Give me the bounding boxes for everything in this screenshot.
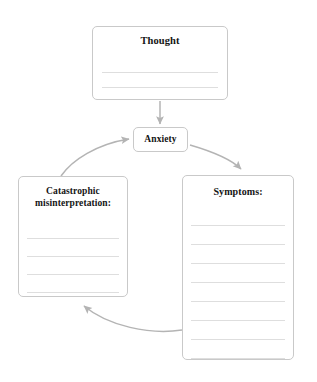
catastrophic-title-line-2: misinterpretation: (25, 198, 121, 210)
write-line[interactable] (27, 257, 119, 275)
write-line[interactable] (102, 73, 218, 88)
symptoms-write-lines (183, 207, 293, 359)
thought-write-lines (93, 58, 227, 88)
catastrophic-to-anxiety-arrow (61, 139, 129, 176)
write-line[interactable] (102, 58, 218, 73)
symptoms-box[interactable]: Symptoms: (182, 175, 294, 360)
symptoms-title: Symptoms: (183, 186, 293, 198)
write-line[interactable] (191, 302, 285, 321)
anxiety-to-symptoms-arrow (190, 145, 241, 169)
anxiety-box[interactable]: Anxiety (133, 127, 188, 152)
write-line[interactable] (27, 275, 119, 293)
write-line[interactable] (191, 321, 285, 340)
write-line[interactable] (191, 226, 285, 245)
symptoms-to-catastrophic-arrow (84, 306, 182, 331)
write-line[interactable] (191, 283, 285, 302)
anxiety-cycle-worksheet: Thought Anxiety Catastrophic misinterpre… (0, 0, 317, 382)
thought-box[interactable]: Thought (92, 26, 228, 100)
write-line[interactable] (191, 207, 285, 226)
write-line[interactable] (191, 264, 285, 283)
write-line[interactable] (27, 239, 119, 257)
catastrophic-title: Catastrophic misinterpretation: (19, 186, 127, 209)
catastrophic-misinterpretation-box[interactable]: Catastrophic misinterpretation: (18, 176, 128, 297)
thought-title: Thought (93, 35, 227, 47)
write-line[interactable] (27, 221, 119, 239)
write-line[interactable] (191, 340, 285, 359)
catastrophic-title-line-1: Catastrophic (25, 186, 121, 198)
catastrophic-write-lines (19, 221, 127, 293)
write-line[interactable] (191, 245, 285, 264)
anxiety-title: Anxiety (144, 134, 176, 145)
